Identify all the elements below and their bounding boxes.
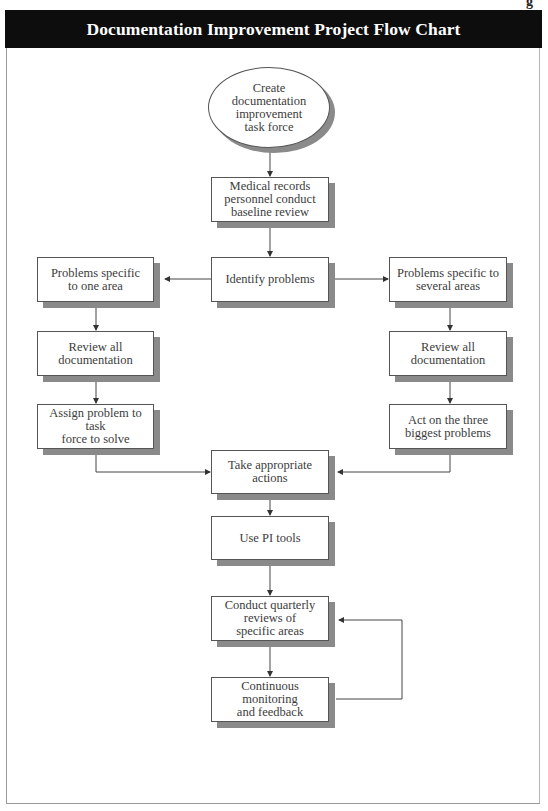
page-corner-glyph: g [526,0,533,10]
chart-title-bar: Documentation Improvement Project Flow C… [5,10,542,48]
node-quarterly-reviews: Conduct quarterly reviews of specific ar… [211,596,329,641]
node-act-three-problems: Act on the three biggest problems [389,404,507,449]
node-label: Identify problems [225,273,314,286]
node-problems-several-areas: Problems specific to several areas [389,257,507,302]
node-label: Create documentation improvement task fo… [232,82,306,134]
node-identify-problems: Identify problems [211,257,329,302]
node-label: Conduct quarterly reviews of specific ar… [225,599,316,638]
node-label: Review all documentation [58,341,132,367]
node-label: Problems specific to one area [51,267,140,293]
node-continuous-monitoring: Continuous monitoring and feedback [211,677,329,722]
node-problems-one-area: Problems specific to one area [37,257,154,302]
node-label: Problems specific to several areas [397,267,499,293]
node-create-task-force: Create documentation improvement task fo… [208,67,330,148]
node-label: Review all documentation [411,341,485,367]
node-use-pi-tools: Use PI tools [211,516,329,560]
node-review-documentation-right: Review all documentation [389,331,507,376]
chart-title: Documentation Improvement Project Flow C… [86,19,460,40]
node-label: Act on the three biggest problems [405,414,491,440]
node-baseline-review: Medical records personnel conduct baseli… [211,177,329,222]
node-label: Assign problem to task force to solve [42,407,149,446]
node-label: Continuous monitoring and feedback [216,680,324,719]
node-label: Medical records personnel conduct baseli… [224,180,315,219]
node-label: Take appropriate actions [228,459,312,485]
node-assign-problem: Assign problem to task force to solve [37,404,154,449]
node-label: Use PI tools [239,532,300,545]
node-review-documentation-left: Review all documentation [37,331,154,376]
node-take-appropriate-actions: Take appropriate actions [211,450,329,494]
